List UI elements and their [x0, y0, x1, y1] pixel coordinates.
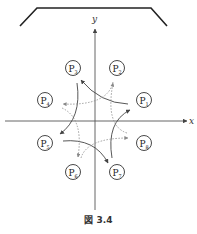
x-axis-label: x — [189, 116, 194, 126]
arrow-p5-p7 — [63, 141, 108, 163]
arrow-p8-p2 — [111, 83, 127, 133]
figure-caption: 図 3.4 — [0, 213, 197, 226]
point-p6: P6 — [66, 165, 81, 180]
arrow-p1-p3 — [81, 80, 128, 104]
arrow-p4-p6 — [62, 108, 79, 157]
point-p5: P5 — [38, 136, 53, 151]
arrow-p2-p4 — [63, 82, 113, 104]
y-axis-label: y — [91, 14, 98, 24]
point-p1: P1 — [137, 93, 152, 108]
point-p7: P7 — [110, 165, 125, 180]
point-p3: P3 — [66, 61, 81, 76]
diagram-canvas: y x P1 P2 P3 P4 P5 P6 P7 P8 — [0, 0, 197, 234]
point-p4: P4 — [38, 93, 53, 108]
arrow-p7-p1 — [111, 110, 130, 158]
point-p8: P8 — [137, 136, 152, 151]
arrow-p6-p8 — [81, 138, 128, 158]
point-p2: P2 — [110, 61, 125, 76]
